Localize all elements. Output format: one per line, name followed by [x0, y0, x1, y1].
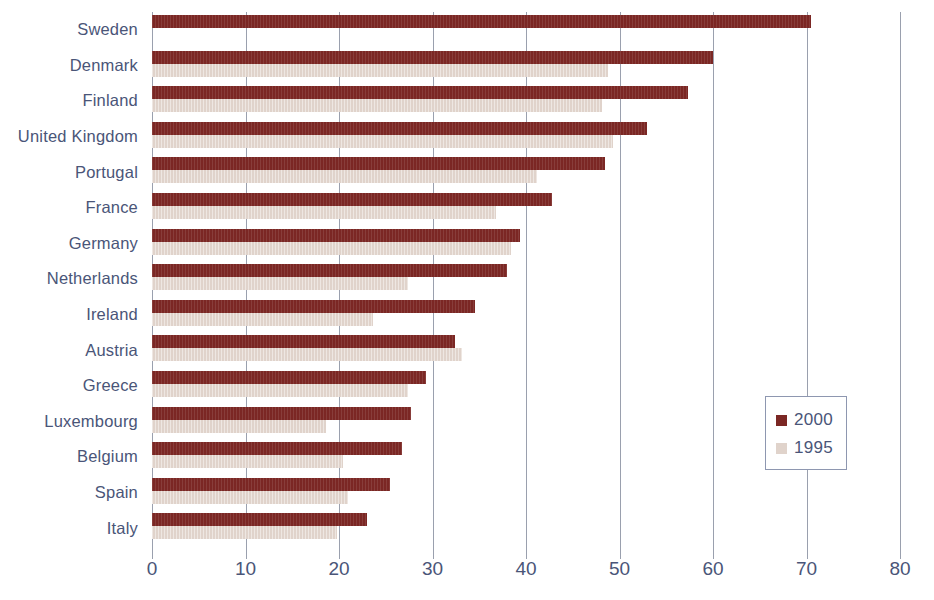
bar-1995 [152, 64, 608, 77]
bar-2000 [152, 407, 411, 420]
category-label: Germany [0, 226, 146, 262]
bar-row [152, 12, 900, 48]
bar-row [152, 475, 900, 511]
bar-row [152, 226, 900, 262]
bar-1995 [152, 135, 613, 148]
legend-swatch-icon [776, 443, 787, 454]
bar-row [152, 48, 900, 84]
bar-1995 [152, 170, 537, 183]
category-label: Luxembourg [0, 404, 146, 440]
bar-row [152, 83, 900, 119]
bar-2000 [152, 264, 507, 277]
bar-2000 [152, 478, 390, 491]
bar-row [152, 190, 900, 226]
gridline [900, 12, 901, 546]
legend-item[interactable]: 1995 [776, 434, 846, 462]
category-label: France [0, 190, 146, 226]
bar-row [152, 332, 900, 368]
legend-label: 1995 [794, 438, 833, 458]
x-tick-label: 20 [328, 558, 349, 580]
bar-2000 [152, 335, 455, 348]
bar-2000 [152, 193, 552, 206]
x-tick-label: 50 [609, 558, 630, 580]
bar-row [152, 297, 900, 333]
x-tick-label: 30 [422, 558, 443, 580]
bar-1995 [152, 491, 348, 504]
legend-item[interactable]: 2000 [776, 406, 846, 434]
bar-2000 [152, 442, 402, 455]
x-tick-label: 10 [235, 558, 256, 580]
bar-2000 [152, 15, 811, 28]
category-label: Portugal [0, 154, 146, 190]
bar-2000 [152, 86, 688, 99]
category-label: Italy [0, 510, 146, 546]
x-tick-label: 40 [515, 558, 536, 580]
bar-row [152, 510, 900, 546]
bar-2000 [152, 513, 367, 526]
bar-2000 [152, 229, 520, 242]
bar-1995 [152, 420, 326, 433]
bar-2000 [152, 122, 647, 135]
bar-1995 [152, 99, 602, 112]
x-tick-label: 0 [147, 558, 158, 580]
y-axis-category-labels: SwedenDenmarkFinlandUnited KingdomPortug… [0, 12, 146, 546]
bar-1995 [152, 526, 337, 539]
x-tick-label: 70 [796, 558, 817, 580]
bar-chart: SwedenDenmarkFinlandUnited KingdomPortug… [0, 0, 934, 600]
legend-swatch-icon [776, 415, 787, 426]
x-tick-label: 60 [702, 558, 723, 580]
category-label: Sweden [0, 12, 146, 48]
category-label: Denmark [0, 48, 146, 84]
bar-2000 [152, 300, 475, 313]
bar-row [152, 261, 900, 297]
legend-label: 2000 [794, 410, 833, 430]
bar-1995 [152, 206, 496, 219]
category-label: Greece [0, 368, 146, 404]
category-label: Austria [0, 332, 146, 368]
category-label: Netherlands [0, 261, 146, 297]
bar-1995 [152, 313, 373, 326]
bar-1995 [152, 242, 511, 255]
bar-row [152, 154, 900, 190]
bar-1995 [152, 455, 343, 468]
bar-1995 [152, 348, 462, 361]
bar-2000 [152, 371, 426, 384]
x-tick-label: 80 [889, 558, 910, 580]
legend: 2000 1995 [765, 396, 847, 470]
bar-2000 [152, 157, 605, 170]
category-label: Finland [0, 83, 146, 119]
category-label: Ireland [0, 297, 146, 333]
bar-2000 [152, 51, 713, 64]
category-label: Belgium [0, 439, 146, 475]
bar-1995 [152, 384, 408, 397]
category-label: Spain [0, 475, 146, 511]
category-label: United Kingdom [0, 119, 146, 155]
bar-row [152, 119, 900, 155]
bar-1995 [152, 277, 408, 290]
